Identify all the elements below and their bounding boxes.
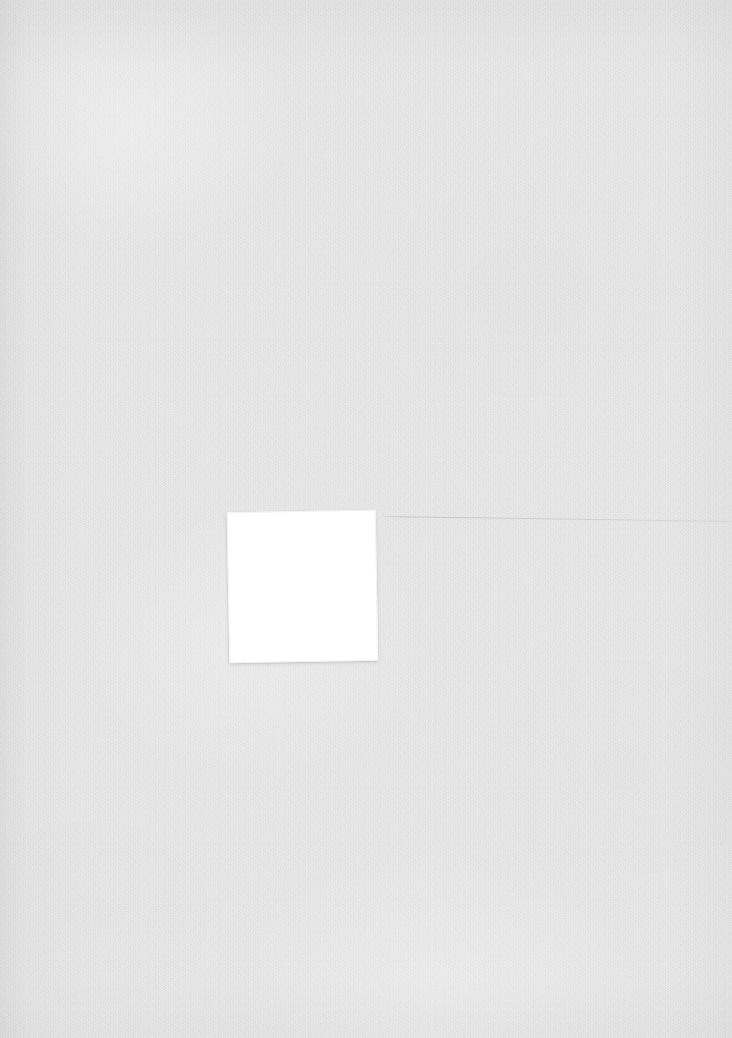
image-canvas xyxy=(0,0,732,1038)
white-square-content xyxy=(228,511,378,663)
white-square xyxy=(227,510,379,664)
faint-hairline xyxy=(377,516,732,522)
white-square-surface xyxy=(227,510,379,664)
